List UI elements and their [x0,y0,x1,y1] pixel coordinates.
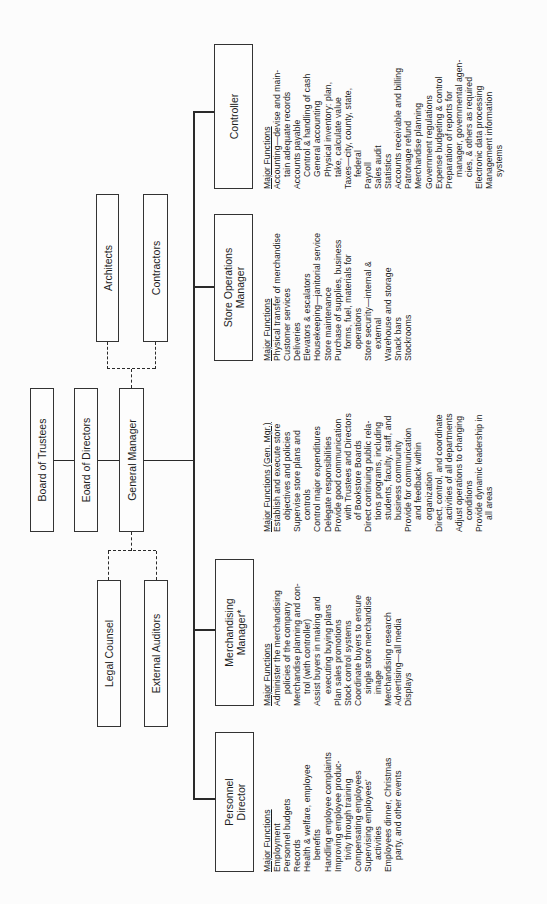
function-item: with Trustees and Directors [343,372,353,532]
function-item: Expense budgeting & control [434,14,444,189]
function-item: Stockrooms [403,191,413,361]
function-item: Displays [403,546,413,706]
function-item: Store maintenance [323,191,333,361]
function-item: Accounting—devise and main- [272,14,282,189]
functions-heading: Major Functions [262,712,272,872]
merchandising-functions: Major FunctionsAdminister the merchandis… [262,546,413,706]
function-item: Sales audit [373,14,383,189]
store-operations-manager-box: Store Operations Manager [214,214,253,361]
drop-store-ops [193,286,215,288]
store-operations-label-2: Manager [234,267,246,308]
controller-box: Controller [214,44,253,189]
function-item: Adjust operations to changing [454,372,464,532]
controller-functions: Major FunctionsAccounting—devise and mai… [262,14,504,189]
function-item: tions programs, including [373,372,383,532]
board-of-directors-box: Eoard of Directors [74,388,98,532]
function-item: manager, governmental agen- [454,14,464,189]
function-item: benefits [312,712,322,872]
drop-controller [193,111,215,113]
function-item: take, calculate value [333,14,343,189]
dashed-to-architects [107,342,108,369]
general-manager-label: General Manager [126,419,138,501]
function-item: Elevators & escalators [302,191,312,361]
function-item: Direct, control, and coordinate [434,372,444,532]
drop-merchandising [193,629,215,631]
function-item: Compensating employees [353,712,363,872]
function-item: Merchandise planning [413,14,423,189]
functions-heading: Major Functions (Gen. Mgr.) [262,372,272,532]
function-item: tivity through training [343,712,353,872]
functions-heading: Major Functions [262,14,272,189]
function-item: controls [302,372,312,532]
function-item: organization [424,372,434,532]
function-item: conditions [464,372,474,532]
contractors-label: Contractors [150,241,162,295]
controller-label: Controller [228,94,240,140]
function-item: image [373,546,383,706]
function-item: policies of the company [282,546,292,706]
store-operations-functions: Major FunctionsPhysical transfer of merc… [262,191,413,361]
function-item: executing buying plans [323,546,333,706]
dashed-legal-auditors-spine [108,550,156,551]
function-item: Management information [484,14,494,189]
function-item: Merchandise planning and con- [292,546,302,706]
connector-gm-main [144,460,193,461]
function-item: Patronage refund [403,14,413,189]
function-item: Establish and execute store [272,372,282,532]
function-item: federal [353,14,363,189]
function-item: Deliveries [292,191,302,361]
function-item: of Bookstore Boards [353,372,363,532]
personnel-director-label-1: Personnel [223,778,235,825]
dashed-architects-contractors-spine [107,368,155,369]
board-of-trustees-box: Board of Trustees [30,388,54,532]
legal-counsel-box: Legal Counsel [97,580,121,727]
function-item: cies, & others as required [464,14,474,189]
function-item: Payroll [363,14,373,189]
function-item: Government regulations [424,14,434,189]
function-item: Warehouse and storage [383,191,393,361]
function-item: Health & welfare, employee [302,712,312,872]
function-item: forms, fuel, materials for [343,191,353,361]
function-item: Provide good communication [333,372,343,532]
personnel-functions: Major FunctionsEmploymentPersonnel budge… [262,712,403,872]
personnel-director-label-2: Director [235,784,247,821]
function-item: Purchase of supplies, business [333,191,343,361]
function-item: all areas [484,372,494,532]
function-item: Control major expenditures [312,372,322,532]
function-item: tain adequate records [282,14,292,189]
functions-heading: Major Functions [262,191,272,361]
function-item: Snack bars [393,191,403,361]
dashed-gm-to-legal [131,532,132,551]
general-manager-box: General Manager [119,388,144,532]
function-item: Administer the merchandising [272,546,282,706]
function-item: Preparation of reports for [444,14,454,189]
function-item: and feedback within [413,372,423,532]
function-item: Physical inventory: plan, [323,14,333,189]
function-item: students, faculty, staff, and [383,372,393,532]
function-item: Accounts receivable and billing [393,14,403,189]
board-of-directors-label: Eoard of Directors [80,418,92,503]
function-item: systems [494,14,504,189]
personnel-director-box: Personnel Director [215,732,254,872]
merchandising-manager-label-1: Merchandising [223,598,235,666]
org-chart: Board of Trustees Eoard of Directors Gen… [0,0,547,904]
connector-trustees-directors [54,460,74,461]
function-item: Physical transfer of merchandise [272,191,282,361]
function-item: Stock control systems [343,546,353,706]
function-item: Direct continuing public rela- [363,372,373,532]
merchandising-manager-box: Merchandising Manager* [215,559,254,706]
external-auditors-box: External Auditors [144,580,168,727]
dashed-to-contractors [155,342,156,369]
function-item: Assist buyers in making and [312,546,322,706]
function-item: Plan sales promotions [333,546,343,706]
architects-label: Architects [102,245,114,291]
function-item: Employees dinner, Christmas [383,712,393,872]
function-item: Advertising—all media [393,546,403,706]
function-item: Control & handling of cash [302,14,312,189]
merchandising-manager-label-2: Manager* [235,610,247,656]
function-item: Accounts payable [292,14,302,189]
function-item: Records [292,712,302,872]
function-item: business community [393,372,403,532]
store-operations-label-1: Store Operations [222,248,234,327]
function-item: Provide for communication [403,372,413,532]
